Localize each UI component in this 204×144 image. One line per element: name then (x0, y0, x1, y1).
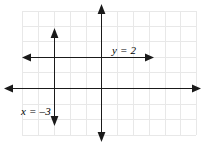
equation-label-vertical-line: x = –3 (21, 106, 51, 117)
coordinate-plane-figure: y = 2 x = –3 (0, 0, 204, 144)
graph-canvas (0, 0, 204, 144)
equation-label-horizontal-line: y = 2 (112, 45, 136, 56)
